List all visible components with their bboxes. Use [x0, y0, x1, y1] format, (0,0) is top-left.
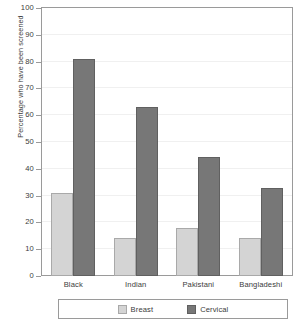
y-tick-mark	[36, 222, 41, 223]
y-tick-mark	[36, 62, 41, 63]
y-tick-mark	[36, 196, 41, 197]
y-tick-mark	[36, 115, 41, 116]
y-tick-mark	[36, 8, 41, 9]
x-tick-label-bangladeshi: Bangladeshi	[221, 280, 298, 289]
bar-black-breast	[51, 193, 73, 276]
y-tick-mark	[36, 169, 41, 170]
y-tick-label: 0	[0, 271, 34, 280]
bars-layer	[42, 8, 292, 276]
bar-chart: Percentage who have been screened 010203…	[0, 0, 298, 322]
y-tick-mark	[36, 142, 41, 143]
bar-indian-cervical	[136, 107, 158, 276]
y-tick-mark	[36, 276, 41, 277]
legend-swatch-cervical-icon	[187, 305, 196, 314]
y-tick-label: 50	[0, 137, 34, 146]
bar-bangladeshi-breast	[239, 238, 261, 276]
bar-pakistani-cervical	[198, 157, 220, 276]
y-tick-label: 10	[0, 244, 34, 253]
legend-label-cervical: Cervical	[200, 305, 228, 314]
legend-swatch-breast-icon	[118, 305, 127, 314]
y-tick-mark	[36, 88, 41, 89]
y-tick-label: 30	[0, 191, 34, 200]
legend: Breast Cervical	[58, 299, 288, 319]
bar-pakistani-breast	[176, 228, 198, 276]
legend-item-cervical: Cervical	[187, 305, 228, 314]
y-tick-label: 80	[0, 57, 34, 66]
y-tick-mark	[36, 35, 41, 36]
y-tick-label: 20	[0, 217, 34, 226]
y-tick-label: 100	[0, 3, 34, 12]
y-tick-label: 40	[0, 164, 34, 173]
legend-label-breast: Breast	[131, 305, 154, 314]
bar-bangladeshi-cervical	[261, 188, 283, 276]
legend-item-breast: Breast	[118, 305, 154, 314]
y-tick-mark	[36, 249, 41, 250]
y-tick-label: 60	[0, 110, 34, 119]
bar-indian-breast	[114, 238, 136, 276]
y-tick-label: 70	[0, 83, 34, 92]
y-tick-label: 90	[0, 30, 34, 39]
bar-black-cervical	[73, 59, 95, 276]
